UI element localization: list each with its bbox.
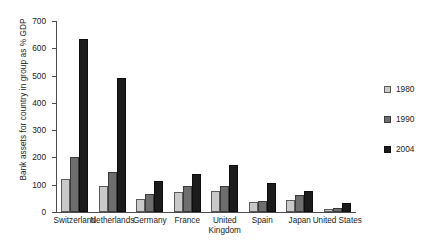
y-tick-label: 200 [32,152,46,162]
legend-item-1990: 1990 [384,114,414,124]
bar-1980 [174,192,183,212]
bar-group: United Kingdom [206,21,244,212]
bar-1980 [211,191,220,212]
category-label: United States [306,216,368,226]
bar-group: France [169,21,207,212]
bar-1980 [61,179,70,212]
y-tick-label: 600 [32,43,46,53]
legend-swatch-1990 [384,116,391,123]
legend-label-2004: 2004 [396,144,414,154]
bar-1990 [295,195,304,212]
bar-1990 [220,186,229,212]
bar-group: Spain [244,21,282,212]
legend-label-1990: 1990 [396,114,414,124]
bar-2004 [229,165,238,212]
y-tick-label: 300 [32,125,46,135]
x-axis-line [56,212,356,213]
bar-2004 [342,203,351,212]
legend-item-2004: 2004 [384,144,414,154]
bar-group: Germany [131,21,169,212]
bar-1990 [258,201,267,212]
bar-1980 [324,209,333,212]
y-axis-label: Bank assets for country in group as % GD… [19,5,28,195]
bar-1980 [136,199,145,212]
bar-1990 [108,172,117,212]
bar-group: Switzerland [56,21,94,212]
bar-1980 [249,202,258,212]
bar-2004 [192,174,201,212]
bar-2004 [304,191,313,212]
legend-label-1980: 1980 [396,84,414,94]
bar-chart: Bank assets for country in group as % GD… [0,0,431,242]
y-tick-label: 700 [32,16,46,26]
plot-area: 0100200300400500600700 SwitzerlandNether… [56,21,356,212]
y-tick: 0 [52,212,56,213]
y-tick-label: 400 [32,98,46,108]
bar-group: Netherlands [94,21,132,212]
y-tick-label: 100 [32,180,46,190]
bar-1990 [333,208,342,212]
bar-2004 [267,183,276,212]
y-tick-label: 500 [32,71,46,81]
bar-2004 [154,181,163,212]
legend-swatch-1980 [384,86,391,93]
bar-1980 [99,186,108,212]
bar-group: Japan [281,21,319,212]
legend-item-1980: 1980 [384,84,414,94]
bar-1990 [183,186,192,212]
bar-groups: SwitzerlandNetherlandsGermanyFranceUnite… [56,21,356,212]
bar-2004 [79,39,88,212]
chart-legend: 1980 1990 2004 [384,84,414,154]
bar-1990 [145,194,154,212]
legend-swatch-2004 [384,146,391,153]
bar-group: United States [319,21,357,212]
bar-1990 [70,157,79,212]
bar-2004 [117,78,126,212]
bar-1980 [286,200,295,212]
